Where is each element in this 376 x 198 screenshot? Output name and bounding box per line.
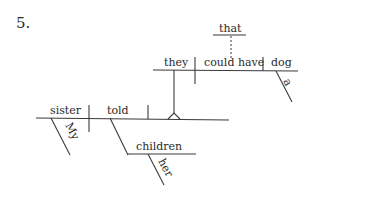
pedestal-fork [168, 113, 180, 119]
noun-clause: they could have dog a [153, 56, 298, 102]
exercise-number: 5. [16, 14, 30, 32]
subject-modifier: My [62, 120, 82, 142]
indirect-object-slant [110, 118, 128, 155]
clause-verb: could have [204, 56, 264, 69]
clause-object: dog [271, 56, 292, 69]
connector-that: that [213, 22, 246, 58]
indirect-object-modifier: her [155, 156, 176, 179]
main-subject: sister [50, 104, 82, 117]
object-modifier: a [280, 76, 295, 88]
clause-subject: they [164, 56, 189, 69]
noun-clause-baseline [153, 70, 298, 71]
sentence-diagram: 5. that they could have dog a sister tol… [0, 0, 376, 198]
main-verb: told [107, 104, 129, 117]
main-baseline [36, 118, 229, 120]
connector-word: that [219, 22, 242, 35]
indirect-object: children [136, 140, 182, 153]
main-clause: sister told My children her [36, 104, 229, 185]
pedestal [168, 70, 180, 119]
